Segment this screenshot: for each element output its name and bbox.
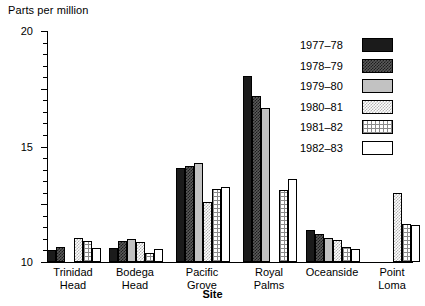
bar (315, 234, 324, 262)
bar-group (109, 31, 163, 262)
bar (324, 238, 333, 262)
legend-item[interactable]: 1980–81 (300, 100, 420, 121)
y-tick-label: 20 (21, 26, 33, 37)
legend-swatch (362, 100, 393, 114)
bar (306, 230, 315, 262)
bar (411, 225, 420, 262)
bar-group (47, 31, 101, 262)
legend-item-label: 1982–83 (300, 142, 343, 154)
bar (56, 247, 65, 262)
bar (203, 202, 212, 262)
bar (109, 248, 118, 262)
legend-swatch (362, 59, 393, 73)
legend-item-label: 1979–80 (300, 80, 343, 92)
y-tick-label: 10 (21, 257, 33, 268)
x-axis-line (47, 262, 413, 263)
legend-item-label: 1978–79 (300, 60, 343, 72)
legend: 1977–781978–791979–801980–811981–821982–… (300, 38, 420, 161)
bar (402, 224, 411, 262)
legend-swatch (362, 141, 393, 155)
legend-item-label: 1980–81 (300, 101, 343, 113)
bar (92, 248, 101, 262)
bar (393, 193, 402, 262)
legend-item[interactable]: 1978–79 (300, 59, 420, 80)
bar (333, 240, 342, 262)
legend-swatch (362, 38, 393, 52)
bar (252, 96, 261, 262)
bar (83, 241, 92, 262)
bar (288, 179, 297, 262)
bar-group (243, 31, 297, 262)
x-axis-title: Site (0, 288, 425, 300)
x-axis-label-line: Point (352, 266, 425, 279)
bar (342, 247, 351, 262)
bar (154, 249, 163, 262)
bar-group (176, 31, 230, 262)
y-tick-major: 0 (41, 262, 48, 263)
bar (221, 187, 230, 262)
bar (243, 76, 252, 262)
legend-swatch (362, 120, 393, 134)
bar (185, 166, 194, 262)
bar-chart: Parts per million 05101520 TrinidadHeadB… (0, 0, 425, 306)
bar (351, 249, 360, 262)
bar (279, 190, 288, 262)
bar (127, 239, 136, 262)
bar (212, 189, 221, 262)
bar (145, 253, 154, 262)
bar (136, 242, 145, 262)
bar (261, 108, 270, 262)
y-axis-title: Parts per million (8, 4, 89, 16)
legend-item[interactable]: 1981–82 (300, 120, 420, 141)
legend-item[interactable]: 1977–78 (300, 38, 420, 59)
legend-item-label: 1977–78 (300, 39, 343, 51)
legend-item[interactable]: 1982–83 (300, 141, 420, 162)
bar (194, 163, 203, 262)
legend-item-label: 1981–82 (300, 121, 343, 133)
bar (74, 238, 83, 262)
bar (118, 241, 127, 262)
bar (47, 250, 56, 262)
legend-item[interactable]: 1979–80 (300, 79, 420, 100)
legend-swatch (362, 79, 393, 93)
y-tick-label: 15 (21, 141, 33, 152)
bar (176, 168, 185, 262)
